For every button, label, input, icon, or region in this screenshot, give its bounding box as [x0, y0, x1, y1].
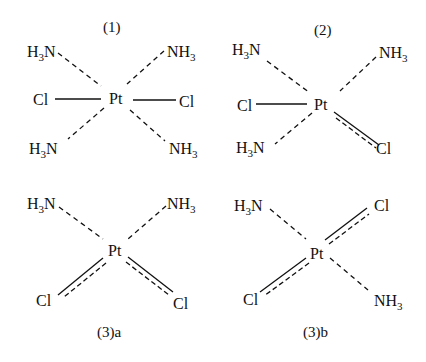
bond-dashed — [59, 207, 103, 239]
bond-dashed — [270, 209, 306, 239]
ligand-nh3: NH3 — [167, 195, 196, 215]
bond-dashed — [340, 57, 376, 91]
bond-dashed — [267, 61, 310, 93]
diagram-canvas: (1) H3N NH3 Cl Pt Cl H3N NH3 (2) H3N NH3… — [0, 0, 426, 362]
structure-label: (2) — [314, 22, 332, 39]
bond-dashed — [68, 108, 104, 139]
ligand-cl: Cl — [173, 295, 189, 312]
bond-solid — [325, 208, 367, 240]
metal-pt: Pt — [108, 242, 122, 259]
metal-pt: Pt — [109, 90, 123, 107]
ligand-cl: Cl — [237, 97, 253, 114]
metal-pt: Pt — [314, 96, 328, 113]
metal-pt: Pt — [310, 245, 324, 262]
structure-3b: H3N Cl Pt Cl NH3 (3)b — [234, 197, 403, 341]
ligand-nh3: NH3 — [374, 292, 403, 312]
structure-1: (1) H3N NH3 Cl Pt Cl H3N NH3 — [27, 19, 198, 160]
bond-dashed — [336, 118, 376, 148]
ligand-h3n: H3N — [232, 41, 261, 61]
bond-dashed — [329, 214, 369, 244]
bond-dashed — [128, 206, 166, 239]
ligand-cl: Cl — [374, 197, 390, 214]
ligand-cl: Cl — [179, 93, 195, 110]
structure-2: (2) H3N NH3 Cl Pt H3N Cl — [232, 22, 408, 159]
ligand-cl: Cl — [376, 140, 392, 157]
bond-solid — [58, 258, 103, 295]
bond-dashed — [64, 263, 106, 297]
bond-dashed — [330, 258, 368, 290]
bond-dashed — [127, 51, 164, 84]
bond-dashed — [58, 53, 101, 86]
ligand-h3n: H3N — [27, 43, 56, 63]
ligand-nh3: NH3 — [167, 43, 196, 63]
ligand-cl: Cl — [243, 291, 259, 308]
bond-solid — [334, 112, 379, 145]
structure-label: (3)a — [97, 324, 121, 341]
ligand-h3n: H3N — [27, 195, 56, 215]
structure-label: (1) — [103, 19, 121, 36]
structure-3a: H3N NH3 Pt Cl Cl (3)a — [27, 195, 196, 341]
bond-dashed — [130, 110, 165, 141]
bond-solid — [260, 258, 306, 292]
ligand-cl: Cl — [33, 91, 49, 108]
structure-label: (3)b — [303, 324, 328, 341]
ligand-h3n: H3N — [234, 197, 263, 217]
ligand-cl: Cl — [36, 292, 52, 309]
ligand-nh3: NH3 — [379, 44, 408, 64]
bond-dashed — [264, 263, 309, 296]
ligand-h3n: H3N — [29, 140, 58, 160]
bond-solid — [128, 257, 173, 292]
ligand-nh3: NH3 — [169, 140, 198, 160]
bond-dashed — [275, 113, 312, 144]
bond-dashed — [126, 262, 169, 295]
ligand-h3n: H3N — [236, 139, 265, 159]
